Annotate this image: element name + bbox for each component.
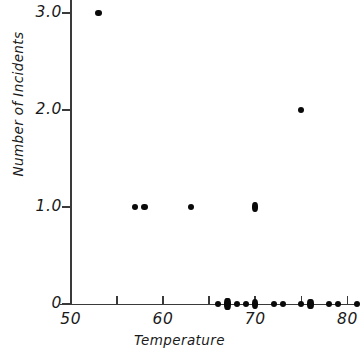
data-point — [252, 299, 258, 308]
data-point — [326, 301, 332, 307]
data-point — [298, 107, 304, 113]
data-point — [335, 301, 341, 307]
data-point — [354, 301, 360, 307]
y-axis-title: Number of Incidents — [10, 24, 26, 184]
data-point — [188, 204, 194, 210]
data-point — [307, 299, 313, 308]
data-point — [280, 301, 286, 307]
data-point — [271, 301, 277, 307]
data-point — [243, 301, 249, 307]
x-axis-title: Temperature — [0, 332, 359, 348]
data-point — [132, 204, 138, 210]
data-point — [224, 298, 230, 310]
data-point — [234, 301, 240, 307]
data-point — [252, 202, 258, 211]
data-point — [298, 301, 304, 307]
data-point — [95, 10, 101, 16]
data-point — [215, 301, 221, 307]
data-point — [141, 204, 147, 210]
